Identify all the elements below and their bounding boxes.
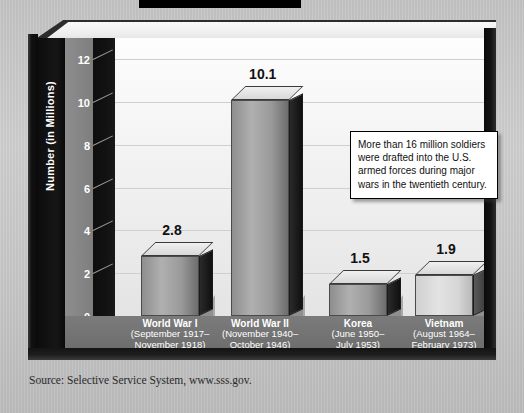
category-dates-line2: February 1973): [393, 340, 484, 348]
axis-tick-mark: [93, 264, 113, 275]
bar-korea: 1.5: [329, 284, 387, 316]
y-axis-title: Number (in Millions): [44, 38, 56, 276]
y-axis-tick-labels: 024681012: [65, 38, 93, 348]
bar-world-war-i: 2.8: [141, 256, 199, 316]
source-note: Source: Selective Service System, www.ss…: [29, 374, 252, 386]
bar-world-war-ii: 10.1: [231, 100, 289, 316]
category-dates-line2: November 1918): [119, 340, 221, 348]
bar-front-face: [141, 256, 199, 316]
y-tick-label: 4: [84, 225, 90, 237]
frame-bottom-plinth: [28, 348, 496, 360]
category-label: Vietnam(August 1964–February 1973): [393, 318, 484, 348]
bar-front-face: [329, 284, 387, 316]
axis-tick-mark: [93, 50, 113, 61]
y-tick-label: 6: [84, 183, 90, 195]
gridline: [115, 59, 484, 60]
axis-tick-mark: [93, 178, 113, 189]
bar-value-label: 1.5: [350, 250, 369, 266]
bar-value-label: 1.9: [436, 241, 455, 257]
chart-page: Number (in Millions) 024681012 2.810.11.…: [0, 0, 524, 413]
bar-top-face: [415, 261, 484, 275]
y-tick-label: 12: [78, 54, 90, 66]
bar-side-face: [289, 93, 303, 316]
bar-side-face: [473, 269, 484, 316]
category-label: World War I(September 1917–November 1918…: [119, 318, 221, 348]
title-bar: [139, 0, 301, 8]
y-tick-label: 2: [84, 268, 90, 280]
axis-tick-mark: [93, 135, 113, 146]
category-dates-line2: October 1946): [209, 340, 311, 348]
bar-side-face: [199, 249, 213, 316]
y-tick-label: 8: [84, 140, 90, 152]
bar-side-face: [387, 277, 401, 316]
frame-left-pillar: [28, 34, 38, 360]
axis-tick-mark: [93, 93, 113, 104]
chart-frame: Number (in Millions) 024681012 2.810.11.…: [28, 20, 496, 360]
axis-side-wall: [93, 38, 115, 316]
y-tick-label: 10: [78, 97, 90, 109]
bar-front-face: [231, 100, 289, 316]
axis-tick-mark: [93, 221, 113, 232]
category-label: World War II(November 1940–October 1946): [209, 318, 311, 348]
bar-vietnam: 1.9: [415, 275, 473, 316]
category-axis-floor: World War I(September 1917–November 1918…: [65, 316, 484, 348]
y-axis-title-strip: Number (in Millions): [38, 38, 65, 348]
bar-value-label: 10.1: [249, 66, 276, 82]
bar-value-label: 2.8: [162, 222, 181, 238]
bar-front-face: [415, 275, 473, 316]
callout-note: More than 16 million soldiers were draft…: [350, 131, 498, 199]
